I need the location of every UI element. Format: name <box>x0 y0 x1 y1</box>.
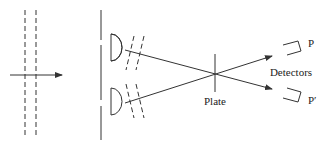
detector-edge <box>283 98 298 102</box>
upper-lens-arc <box>111 34 122 61</box>
detector-edge <box>298 92 301 102</box>
plate-label: Plate <box>204 95 226 107</box>
lower-beam <box>125 56 272 103</box>
detector-edge <box>287 51 301 55</box>
upper-wavefront-dash <box>126 36 134 70</box>
upper-beam <box>125 50 272 89</box>
detector-p-label: P <box>308 37 314 49</box>
detector-edge <box>287 88 301 92</box>
detector-p <box>283 41 301 55</box>
detector-edge <box>283 41 298 45</box>
detector-p-prime-label: P′ <box>308 94 317 106</box>
upper-lens <box>111 34 122 61</box>
detector-p-prime <box>283 88 301 102</box>
double-slit-diagram: Plate P Detectors P′ <box>0 0 326 147</box>
detector-edge <box>298 41 301 51</box>
detectors-label: Detectors <box>270 66 312 78</box>
lower-lens-arc <box>111 88 122 115</box>
incoming-wavefronts <box>25 10 36 138</box>
lower-wavefront-dash <box>136 84 144 118</box>
